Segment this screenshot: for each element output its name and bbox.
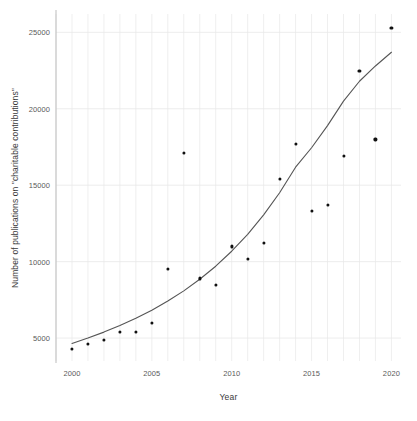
y-axis-title: Number of publications on "charitable co… — [8, 0, 22, 375]
y-tick-label: 10000 — [29, 257, 50, 266]
y-tick-label: 25000 — [29, 28, 50, 37]
x-tick-label: 2000 — [63, 369, 80, 378]
x-tick-label: 2015 — [303, 369, 320, 378]
y-tick-label: 5000 — [33, 334, 50, 343]
y-tick-label: 20000 — [29, 104, 50, 113]
y-tick-label: 15000 — [29, 181, 50, 190]
chart-figure: Number of publications on "charitable co… — [0, 0, 417, 421]
plot-area: 500010000150002000025000 200020052010201… — [56, 14, 401, 361]
x-tick-label: 2010 — [223, 369, 240, 378]
y-axis-title-text: Number of publications on "charitable co… — [10, 88, 20, 288]
x-tick-label: 2005 — [143, 369, 160, 378]
x-tick-label: 2020 — [383, 369, 400, 378]
x-axis-title: Year — [56, 392, 401, 402]
data-layer — [56, 14, 401, 361]
trend-line — [72, 52, 391, 343]
